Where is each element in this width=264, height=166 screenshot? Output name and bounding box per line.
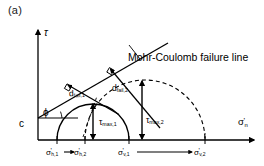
mohr-coulomb-figure: (a) xyxy=(0,0,264,166)
d-fail-1-label: dfail,1 xyxy=(69,89,85,99)
tau-max-1-label: τmax,1 xyxy=(99,118,117,127)
tau-max-1-subscript: max,1 xyxy=(102,121,116,127)
failure-line-title: Mohr-Coulomb failure line xyxy=(128,52,248,63)
sigma-h-1-label: σ'h,1 xyxy=(46,148,58,158)
d-fail-1-subscript: fail,1 xyxy=(74,92,85,98)
sigma-n-axis-label: σ'n xyxy=(238,117,248,129)
sigma-v-2-label: σ'v,2 xyxy=(194,148,206,158)
sigma-v-2-subscript: v,2 xyxy=(199,152,205,157)
sigma-h-2-label: σ'h,2 xyxy=(74,148,86,158)
d-fail-2-right-angle-marker xyxy=(107,68,114,75)
sigma-h-1-subscript: h,1 xyxy=(51,152,58,157)
tau-axis-label: τ xyxy=(44,28,48,38)
d-fail-2-subscript: fail,2 xyxy=(117,87,128,93)
friction-angle-label: ϕ xyxy=(43,108,49,118)
mohr-diagram-canvas xyxy=(0,0,264,166)
sigma-v-1-subscript: v,1 xyxy=(123,152,129,157)
cohesion-label: c xyxy=(19,119,24,129)
sigma-n-subscript: n xyxy=(244,122,247,128)
sigma-v-1-label: σ'v,1 xyxy=(118,148,130,158)
tau-max-2-subscript: max,2 xyxy=(149,119,163,125)
phi-angle-arc xyxy=(61,112,63,118)
d-fail-2-label: dfail,2 xyxy=(112,84,128,93)
tau-max-2-label: τmax,2 xyxy=(146,116,164,125)
sigma-h-2-subscript: h,2 xyxy=(79,152,86,157)
